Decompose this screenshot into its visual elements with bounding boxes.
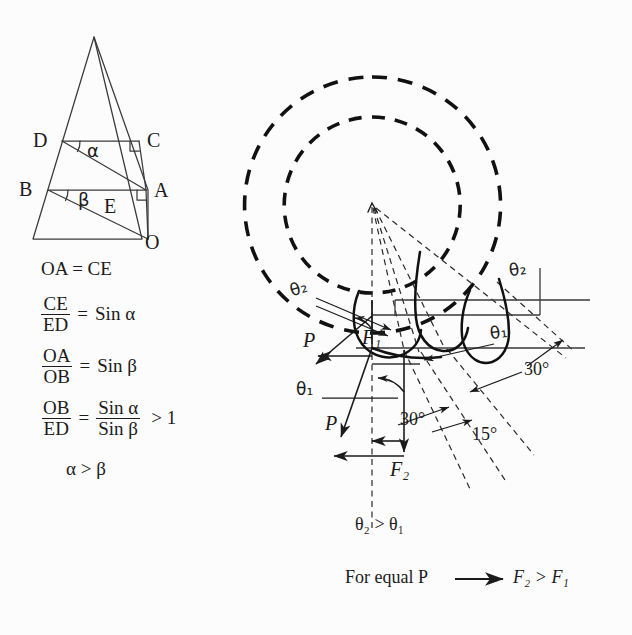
caption-force-inequality: F₂ > F₁ [513, 568, 569, 586]
force-label-F2: F₂ [390, 459, 409, 479]
angle-label-30deg-center: 30° [400, 410, 425, 428]
angle-label-15deg: 15° [472, 425, 497, 443]
angle-label-theta2-right: θ₂ [508, 260, 527, 279]
chip-curve-inner [415, 252, 468, 351]
theta1-angle-arc [378, 378, 404, 392]
apex-ray-long-right [376, 208, 566, 358]
caption-theta-inequality: θ₂ > θ₁ [355, 515, 404, 533]
angle-label-theta1-left: θ₁ [296, 381, 313, 398]
force-label-P-upper: P [303, 330, 315, 350]
deg30-center-leader [470, 372, 522, 392]
force-label-F1: F₁ [362, 327, 381, 347]
inner-dashed-arc [284, 117, 460, 293]
force-label-P-lower: P [325, 413, 337, 433]
tool-force-diagram-layer [0, 0, 632, 635]
figure-canvas: D C B A E O α β OA = CE CE ED = Sin α OA… [0, 0, 632, 635]
dashed-angle-line-b [421, 352, 505, 480]
angle-label-theta1-right: θ₁ [489, 323, 508, 342]
caption-for-equal-P: For equal P [345, 568, 428, 586]
force-vector-P-lower [341, 348, 372, 437]
angle-label-30deg-right: 30° [524, 360, 549, 378]
